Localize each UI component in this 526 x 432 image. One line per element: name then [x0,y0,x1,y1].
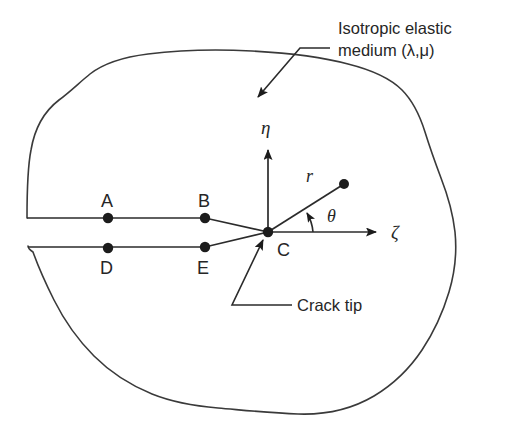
crack-faces [27,218,268,247]
node-label-C: C [277,240,290,260]
radius-label: r [306,166,314,186]
medium-leader-line [258,48,330,97]
node-dot-C [263,227,273,237]
medium-label-line1: Isotropic elastic [338,19,452,37]
node-label-B: B [198,191,210,211]
eta-axis-label: η [261,117,270,138]
node-dot-B [200,213,210,223]
crack-tip-diagram: Isotropic elastic medium (λ,μ) Crack tip… [0,0,526,432]
polar-coordinates [268,179,349,232]
node-label-A: A [101,191,113,211]
node-dot-A [103,213,113,223]
crack-face-upper [27,218,268,232]
theta-label: θ [327,206,336,226]
medium-leader [258,48,330,97]
theta-arc [307,213,313,232]
local-axes [268,150,376,232]
node-dot-D [200,242,210,252]
diagram-canvas: Isotropic elastic medium (λ,μ) Crack tip… [0,0,526,432]
medium-label-line2: medium (λ,μ) [338,41,435,59]
crack-tip-label: Crack tip [297,296,362,314]
node-label-D: E [197,258,209,278]
crack-face-lower [28,232,268,247]
node-label-E: D [100,258,113,278]
field-point-dot [339,179,349,189]
zeta-axis-label: ζ [391,222,400,243]
node-dot-E [103,243,113,253]
